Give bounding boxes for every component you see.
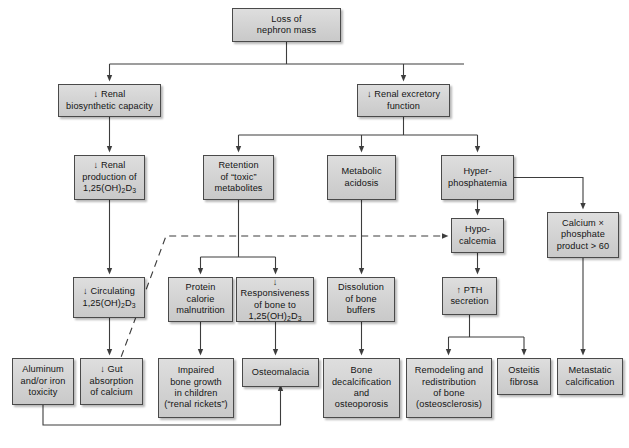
node-label: Metastaticcalcification <box>561 365 619 388</box>
node-label: Impairedbone growthin children(“renal ri… <box>162 365 230 411</box>
node-label: Metabolicacidosis <box>331 166 392 189</box>
node-label: ↑ PTHsecretion <box>446 285 493 308</box>
node-label: Osteitisfibrosa <box>501 365 547 388</box>
node-metabolic-acidosis: Metabolicacidosis <box>327 155 396 200</box>
edge-loss-to-biosynthetic-and-excretory <box>110 42 465 78</box>
node-label: ↓ Gutabsorptionof calcium <box>84 364 139 398</box>
edge-pth-to-remodeling-and-osteitis <box>449 315 525 352</box>
node-calcium-phosphate-product: Calcium ×phosphateproduct > 60 <box>547 212 619 258</box>
node-label: Proteincaloriemalnutrition <box>172 282 229 316</box>
node-label: Aluminumand/or irontoxicity <box>16 364 70 398</box>
node-retention-toxic-metabolites: Retentionof “toxic”metabolites <box>203 155 274 200</box>
node-impaired-bone-growth: Impairedbone growthin children(“renal ri… <box>158 358 234 418</box>
node-remodeling-redistribution: Remodeling andredistributionof bone(oste… <box>406 358 492 418</box>
node-renal-production-vitd: ↓ Renalproduction of1,25(OH)2D3 <box>74 155 145 200</box>
node-label: ↓ Circulating1,25(OH)2D3 <box>77 286 141 309</box>
node-label: Remodeling andredistributionof bone(oste… <box>410 365 488 411</box>
node-label: Dissolutionof bonebuffers <box>331 282 391 316</box>
node-label: Hypo-calcemia <box>455 224 500 247</box>
node-label: Bonedecalcificationandosteoporosis <box>327 365 396 411</box>
node-osteomalacia: Osteomalacia <box>242 358 319 387</box>
node-label: Retentionof “toxic”metabolites <box>207 160 270 194</box>
edge-excretory-to-three <box>239 117 478 149</box>
node-renal-biosynthetic-capacity: ↓ Renalbiosynthetic capacity <box>58 84 161 117</box>
node-label: Loss ofnephron mass <box>236 14 337 37</box>
node-label: Calcium ×phosphateproduct > 60 <box>551 218 615 252</box>
node-responsiveness-of-bone: ↓ Responsivenessof bone to1,25(OH)2D3 <box>236 277 314 322</box>
node-label: ↓ Renalbiosynthetic capacity <box>62 89 157 112</box>
node-hypocalcemia: Hypo-calcemia <box>451 218 504 253</box>
node-label: ↓ Responsivenessof bone to1,25(OH)2D3 <box>240 277 310 323</box>
node-aluminum-iron-toxicity: Aluminumand/or irontoxicity <box>12 358 74 405</box>
flowchart-canvas: Loss ofnephron mass↓ Renalbiosynthetic c… <box>0 0 629 448</box>
edge-hyperphosphatemia-to-calcium-product <box>514 178 583 207</box>
node-gut-absorption-of-calcium: ↓ Gutabsorptionof calcium <box>80 358 143 405</box>
node-osteitis-fibrosa: Osteitisfibrosa <box>497 358 551 395</box>
node-metastatic-calcification: Metastaticcalcification <box>557 358 623 395</box>
node-bone-decalcification: Bonedecalcificationandosteoporosis <box>323 358 400 418</box>
node-protein-calorie-malnutrition: Proteincaloriemalnutrition <box>168 277 233 322</box>
node-label: Hyper-phosphatemia <box>445 166 510 189</box>
node-pth-secretion: ↑ PTHsecretion <box>442 277 497 315</box>
node-label: ↓ Renalproduction of1,25(OH)2D3 <box>78 160 141 194</box>
node-hyperphosphatemia: Hyper-phosphatemia <box>441 155 514 200</box>
node-loss-of-nephron-mass: Loss ofnephron mass <box>232 8 341 42</box>
node-renal-excretory-function: ↓ Renal excretoryfunction <box>357 84 450 117</box>
node-label: ↓ Renal excretoryfunction <box>361 89 446 112</box>
node-circulating-vitd: ↓ Circulating1,25(OH)2D3 <box>73 277 145 318</box>
node-label: Osteomalacia <box>246 367 315 378</box>
node-dissolution-of-bone-buffers: Dissolutionof bonebuffers <box>327 277 395 322</box>
